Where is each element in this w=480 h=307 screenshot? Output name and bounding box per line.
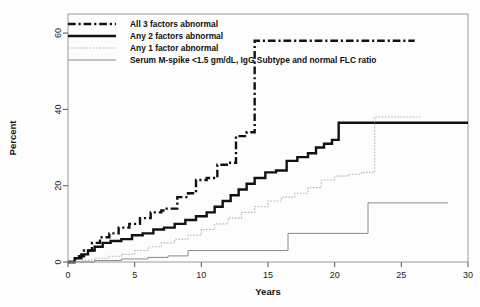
x-tick-label: 25 [396,270,406,280]
x-tick-label: 5 [132,270,137,280]
x-tick-label: 30 [463,270,473,280]
y-tick-label: 0 [53,259,63,264]
x-tick-label: 20 [330,270,340,280]
y-tick-label: 60 [53,28,63,38]
plot-frame [68,14,468,262]
series-line-0 [68,41,415,262]
series-line-3 [68,203,448,262]
chart-figure: 0510152025300204060YearsPercentAll 3 fac… [0,0,480,307]
series-line-1 [68,123,468,262]
plot-canvas: 0510152025300204060YearsPercentAll 3 fac… [0,0,480,307]
legend-label-2: Any 1 factor abnormal [130,43,218,53]
y-tick-label: 20 [53,181,63,191]
legend-label-0: All 3 factors abnormal [130,19,218,29]
legend-label-1: Any 2 factors abnormal [130,31,223,41]
x-tick-label: 10 [196,270,206,280]
y-axis-title: Percent [7,120,18,156]
legend-label-3: Serum M-spike <1.5 gm/dL, IgG Subtype an… [130,55,376,65]
x-axis-title: Years [255,286,280,297]
x-tick-label: 0 [65,270,70,280]
y-tick-label: 40 [53,104,63,114]
x-tick-label: 15 [263,270,273,280]
